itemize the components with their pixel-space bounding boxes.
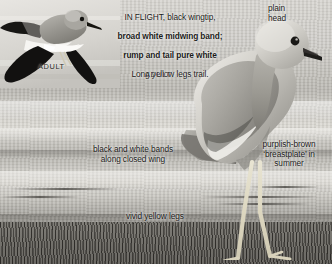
label-plain-head: plain head: [268, 4, 314, 23]
flight-note-line-3: rump and tail pure white: [108, 51, 232, 61]
flight-note-line-2: broad white midwing band;: [108, 32, 232, 42]
label-breastplate: purplish-brown ‘breastplate’ in summer: [248, 140, 330, 169]
flight-inset-photo: [0, 0, 120, 88]
bird-id-plate: IN FLIGHT, black wingtip, broad white mi…: [0, 0, 332, 267]
label-wing-bands: black and white bands along closed wing: [80, 145, 186, 164]
flight-note-line-1: IN FLIGHT, black wingtip,: [108, 13, 232, 23]
caption-adult-flight: ADULT: [38, 62, 65, 71]
caption-adult-standing: ADULT: [145, 70, 172, 79]
ground-debris: [0, 196, 80, 198]
ground-debris: [10, 188, 120, 190]
label-vivid-yellow-legs: vivid yellow legs: [126, 212, 206, 222]
